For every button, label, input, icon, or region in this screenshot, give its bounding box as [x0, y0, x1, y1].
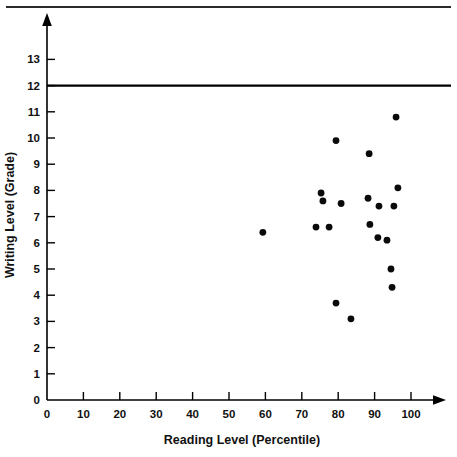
y-tick-label: 13 [27, 53, 40, 65]
y-axis-arrowhead [42, 13, 52, 26]
y-tick-label: 5 [34, 263, 41, 275]
data-point [338, 200, 345, 207]
y-tick-label: 1 [34, 368, 41, 380]
data-point [394, 184, 401, 191]
data-point [348, 315, 355, 322]
data-point [313, 224, 320, 231]
chart-canvas: 012345678910111213 010203040506070809010… [0, 0, 457, 457]
x-axis [47, 395, 446, 405]
y-tick-label: 9 [34, 158, 40, 170]
x-axis-arrowhead [433, 395, 446, 405]
y-tick-label: 4 [34, 289, 41, 301]
data-point [326, 224, 333, 231]
x-tick-label: 40 [186, 408, 199, 420]
x-tick-label: 90 [368, 408, 381, 420]
data-point [389, 284, 396, 291]
x-tick-label: 50 [223, 408, 236, 420]
y-axis-title: Writing Level (Grade) [3, 152, 17, 278]
data-point [333, 300, 340, 307]
data-point [374, 234, 381, 241]
data-point [318, 190, 325, 197]
data-point [390, 203, 397, 210]
y-tick-label: 10 [27, 132, 40, 144]
y-tick-label: 6 [34, 237, 40, 249]
data-point [333, 137, 340, 144]
x-tick-label: 30 [150, 408, 163, 420]
y-tick-label: 11 [28, 106, 41, 118]
data-point [393, 114, 400, 121]
x-tick-label: 20 [113, 408, 126, 420]
data-point [320, 197, 327, 204]
data-point [366, 150, 373, 157]
y-axis [42, 13, 52, 400]
data-point [388, 266, 395, 273]
data-point-group [259, 114, 401, 323]
data-point [366, 221, 373, 228]
x-tick-label: 80 [332, 408, 345, 420]
x-tick-label: 0 [44, 408, 50, 420]
y-tick-label: 7 [34, 211, 40, 223]
y-tick-label: 0 [34, 394, 40, 406]
y-tick-label: 2 [34, 342, 40, 354]
x-tick-label: 100 [401, 408, 420, 420]
data-point [259, 229, 266, 236]
y-tick-label: 3 [34, 315, 40, 327]
x-axis-ticks: 0102030405060708090100 [44, 392, 421, 420]
x-axis-title: Reading Level (Percentile) [164, 433, 320, 447]
y-axis-ticks: 012345678910111213 [27, 53, 55, 406]
data-point [384, 237, 391, 244]
y-tick-label: 8 [34, 184, 41, 196]
data-point [365, 195, 372, 202]
x-tick-label: 60 [259, 408, 272, 420]
x-tick-label: 10 [77, 408, 90, 420]
y-tick-label: 12 [27, 80, 40, 92]
data-point [376, 203, 383, 210]
x-tick-label: 70 [295, 408, 308, 420]
scatter-plot-figure: 012345678910111213 010203040506070809010… [0, 0, 457, 457]
